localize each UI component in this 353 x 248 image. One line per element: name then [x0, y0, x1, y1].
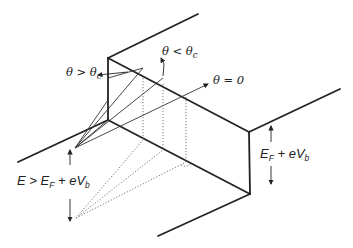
right-wall-vertical — [249, 132, 250, 194]
label-energy-left: E > EF + eVb — [17, 173, 90, 190]
tunneling-barrier-diagram: θ > θc θ < θc θ = 0 E > EF + eVb EF + eV… — [0, 0, 353, 248]
label-theta-gt-critical: θ > θc — [66, 65, 102, 81]
ray-theta-lt-critical — [75, 78, 163, 148]
label-energy-right: EF + eVb — [260, 146, 310, 163]
top-plane-front-edge — [108, 58, 249, 132]
right-lower-plane-edge — [158, 194, 250, 236]
left-lower-plane-edge — [18, 120, 108, 162]
projection-lines — [76, 78, 190, 218]
electron-rays — [75, 68, 208, 148]
label-theta-lt-critical: θ < θc — [162, 44, 198, 60]
proj-angle-mark — [181, 164, 190, 166]
proj-diag-3 — [76, 162, 186, 218]
proj-diag-1 — [76, 140, 143, 218]
bottom-plane-front-edge — [108, 120, 250, 194]
right-upper-plane-edge — [249, 89, 340, 132]
label-theta-zero: θ = 0 — [213, 73, 244, 87]
ray-theta-gt-critical — [75, 68, 143, 148]
arrow-theta-lt — [161, 58, 164, 76]
